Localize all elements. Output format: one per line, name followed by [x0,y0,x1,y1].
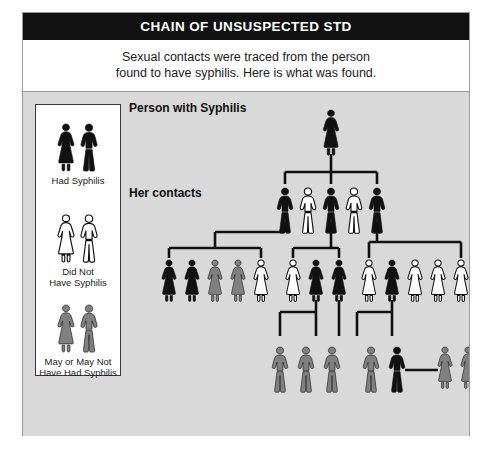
legend-label-did-not-have-syphilis: Did Not [36,266,120,277]
legend-label-may-or-may-not-have-had-syphilis-line2: Have Had Syphilis [36,367,120,378]
subtitle-block: Sexual contacts were traced from the per… [23,40,469,92]
legend-swatch-may-or-may-not-have-had-syphilis [36,292,120,354]
person-icon [58,305,74,352]
legend-swatch-had-syphilis [36,111,120,173]
tree-svg [123,92,469,436]
person-icon [431,260,445,302]
label-person-with-syphilis: Person with Syphilis [129,101,246,115]
person-icon [298,347,314,392]
legend-figures-had-syphilis [50,121,106,173]
person-icon [272,347,288,392]
figure-her-contacts-4-male-did-not-have-syphilis [346,188,362,233]
person-icon [58,215,74,262]
figure-her-contacts-2-male-did-not-have-syphilis [300,188,316,233]
figure-fourth-generation-1-male-may-or-may-not-have-had-syphilis [272,347,288,392]
label-her-contacts: Her contacts [129,186,202,200]
person-icon [81,124,97,171]
figure-third-generation-1-female-had-syphilis [162,260,176,302]
legend-figure-male-had-syphilis [81,124,97,171]
figure-index-case-1-female-had-syphilis [323,110,338,155]
person-icon [454,260,468,302]
legend: Had SyphilisDid NotHave SyphilisMay or M… [35,104,121,376]
legend-figures-did-not-have-syphilis [50,212,106,264]
person-icon [81,215,97,262]
figure-fourth-generation-6-female-may-or-may-not-have-had-syphilis [438,347,452,389]
legend-label-had-syphilis: Had Syphilis [36,175,120,186]
person-icon [408,260,422,302]
person-icon [300,188,316,233]
infographic-panel: CHAIN OF UNSUSPECTED STD Sexual contacts… [22,12,470,436]
legend-item-may-or-may-not-have-had-syphilis: May or May NotHave Had Syphilis [36,292,120,378]
figure-third-generation-8-female-had-syphilis [332,260,346,302]
figure-third-generation-4-female-may-or-may-not-have-had-syphilis [231,260,245,302]
legend-figure-female-had-syphilis [58,124,74,171]
figure-third-generation-11-female-did-not-have-syphilis [408,260,422,302]
person-icon [231,260,245,302]
person-icon [81,305,97,352]
person-icon [254,260,268,302]
legend-figure-female-did-not-have-syphilis [58,215,74,262]
person-icon [389,347,405,392]
legend-swatch-did-not-have-syphilis [36,202,120,264]
legend-item-did-not-have-syphilis: Did NotHave Syphilis [36,202,120,288]
figure-third-generation-13-female-did-not-have-syphilis [454,260,468,302]
figure-fourth-generation-4-male-may-or-may-not-have-had-syphilis [363,347,379,392]
figure-third-generation-2-female-had-syphilis [185,260,199,302]
person-icon [309,260,323,302]
person-icon [363,347,379,392]
page-title: CHAIN OF UNSUSPECTED STD [140,19,351,34]
person-icon [385,260,399,302]
figure-third-generation-3-female-may-or-may-not-have-had-syphilis [208,260,222,302]
diagram-body: Had SyphilisDid NotHave SyphilisMay or M… [23,92,469,436]
person-icon [323,110,338,155]
generation-fourth-generation [272,347,469,392]
figure-fourth-generation-3-male-may-or-may-not-have-had-syphilis [324,347,340,392]
person-icon [461,347,469,389]
figure-third-generation-6-female-did-not-have-syphilis [286,260,300,302]
legend-figure-female-may-or-may-not-have-had-syphilis [58,305,74,352]
figure-third-generation-5-female-did-not-have-syphilis [254,260,268,302]
person-icon [362,260,376,302]
legend-item-had-syphilis: Had Syphilis [36,111,120,186]
family-tree-diagram: Person with Syphilis Her contacts [123,92,469,436]
generation-third-generation [162,260,468,302]
person-icon [346,188,362,233]
legend-label-did-not-have-syphilis-line2: Have Syphilis [36,277,120,288]
figure-third-generation-9-female-did-not-have-syphilis [362,260,376,302]
person-icon [162,260,176,302]
legend-figure-male-did-not-have-syphilis [81,215,97,262]
figure-third-generation-12-female-did-not-have-syphilis [431,260,445,302]
title-bar: CHAIN OF UNSUSPECTED STD [23,13,469,40]
person-icon [324,347,340,392]
subtitle-line-2: found to have syphilis. Here is what was… [33,65,459,81]
person-icon [286,260,300,302]
subtitle-line-1: Sexual contacts were traced from the per… [33,49,459,65]
generation-index-case [323,110,338,155]
figure-third-generation-10-female-had-syphilis [385,260,399,302]
legend-label-may-or-may-not-have-had-syphilis: May or May Not [36,356,120,367]
person-icon [58,124,74,171]
legend-figure-male-may-or-may-not-have-had-syphilis [81,305,97,352]
figure-fourth-generation-7-female-may-or-may-not-have-had-syphilis [461,347,469,389]
person-icon [185,260,199,302]
person-icon [438,347,452,389]
person-icon [332,260,346,302]
figure-third-generation-7-female-had-syphilis [309,260,323,302]
person-icon [208,260,222,302]
legend-figures-may-or-may-not-have-had-syphilis [50,302,106,354]
figure-fourth-generation-5-male-had-syphilis [389,347,405,392]
figure-fourth-generation-2-male-may-or-may-not-have-had-syphilis [298,347,314,392]
